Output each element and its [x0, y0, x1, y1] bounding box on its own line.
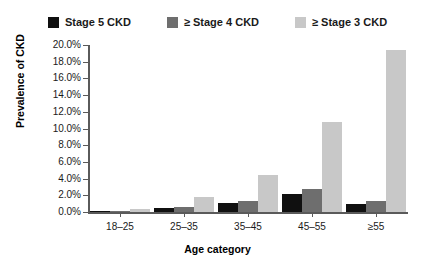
- bar-group: 18–25: [88, 45, 152, 212]
- x-axis-category-label: 45–55: [280, 221, 344, 232]
- legend-label-stage-3: ≥ Stage 3 CKD: [312, 17, 387, 28]
- bar: [386, 50, 406, 212]
- bar: [282, 194, 302, 212]
- x-axis-category-label: 35–45: [216, 221, 280, 232]
- x-axis-category-label: 25–35: [152, 221, 216, 232]
- y-axis-tick: [83, 212, 88, 213]
- x-axis-category-label: 18–25: [88, 221, 152, 232]
- bar: [366, 201, 386, 212]
- bar-group: ≥55: [344, 45, 408, 212]
- y-axis-label: 18.0%: [53, 57, 81, 67]
- x-axis-tick: [312, 212, 313, 217]
- y-axis-label: 12.0%: [53, 107, 81, 117]
- bar-group-bars: [216, 45, 280, 212]
- chart-legend: Stage 5 CKD ≥ Stage 4 CKD ≥ Stage 3 CKD: [0, 12, 435, 32]
- x-axis-tick: [120, 212, 121, 217]
- y-axis-label: 10.0%: [53, 124, 81, 134]
- x-axis-title: Age category: [0, 243, 435, 255]
- legend-swatch-stage-4: [167, 17, 178, 28]
- bar: [194, 197, 214, 212]
- chart-figure: Stage 5 CKD ≥ Stage 4 CKD ≥ Stage 3 CKD …: [0, 0, 435, 269]
- bar-group-bars: [344, 45, 408, 212]
- bar-group-bars: [152, 45, 216, 212]
- legend-label-stage-4: ≥ Stage 4 CKD: [184, 17, 259, 28]
- legend-label-stage-5: Stage 5 CKD: [65, 17, 131, 28]
- y-axis-label: 0.0%: [58, 207, 81, 217]
- bar: [322, 122, 342, 212]
- bar-group: 25–35: [152, 45, 216, 212]
- y-axis-label: 2.0%: [58, 190, 81, 200]
- x-axis-tick: [184, 212, 185, 217]
- bar: [218, 203, 238, 212]
- bar: [238, 201, 258, 212]
- legend-entry-stage-3: ≥ Stage 3 CKD: [295, 17, 387, 28]
- bar: [130, 209, 150, 212]
- legend-swatch-stage-3: [295, 17, 306, 28]
- bar-group: 35–45: [216, 45, 280, 212]
- plot-area: 0.0%2.0%4.0%6.0%8.0%10.0%12.0%14.0%16.0%…: [88, 45, 408, 212]
- y-axis-title: Prevalence of CKD: [14, 34, 26, 128]
- bar: [346, 204, 366, 212]
- bar: [90, 211, 110, 212]
- legend-entry-stage-4: ≥ Stage 4 CKD: [167, 17, 259, 28]
- y-axis-label: 20.0%: [53, 40, 81, 50]
- x-axis-tick: [376, 212, 377, 217]
- bar-group-bars: [88, 45, 152, 212]
- bar-group: 45–55: [280, 45, 344, 212]
- y-axis-label: 8.0%: [58, 140, 81, 150]
- y-axis-label: 4.0%: [58, 174, 81, 184]
- y-axis-label: 16.0%: [53, 73, 81, 83]
- y-axis-label: 6.0%: [58, 157, 81, 167]
- legend-entry-stage-5: Stage 5 CKD: [48, 17, 131, 28]
- bar: [258, 175, 278, 212]
- x-axis-category-label: ≥55: [344, 221, 408, 232]
- bar-group-bars: [280, 45, 344, 212]
- legend-swatch-stage-5: [48, 17, 59, 28]
- y-axis-label: 14.0%: [53, 90, 81, 100]
- bar: [154, 208, 174, 212]
- bar: [302, 189, 322, 212]
- x-axis-tick: [248, 212, 249, 217]
